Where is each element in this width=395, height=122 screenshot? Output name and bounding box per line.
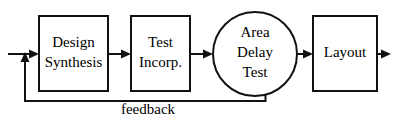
input-arrow-head bbox=[29, 50, 39, 59]
edge-test-to-area bbox=[190, 50, 213, 59]
node-area-delay-test[interactable]: Area Delay Test bbox=[213, 12, 297, 96]
layout-label: Layout bbox=[324, 44, 367, 60]
node-layout[interactable]: Layout bbox=[313, 16, 377, 91]
test-incorp-label-line1: Test bbox=[148, 34, 174, 50]
layout-output-arrow-head bbox=[381, 50, 391, 59]
node-design-synthesis[interactable]: Design Synthesis bbox=[39, 16, 108, 91]
area-to-layout-arrow-head bbox=[303, 50, 313, 59]
edge-area-to-layout bbox=[297, 50, 313, 59]
design-synthesis-label-line1: Design bbox=[52, 34, 95, 50]
edge-synthesis-to-test bbox=[108, 50, 131, 59]
test-incorp-label-line2: Incorp. bbox=[139, 54, 182, 70]
edge-layout-output bbox=[377, 50, 391, 59]
diagram-canvas: Design Synthesis Test Incorp. Area Delay… bbox=[0, 0, 395, 122]
block-diagram: Design Synthesis Test Incorp. Area Delay… bbox=[0, 0, 395, 122]
node-test-incorp[interactable]: Test Incorp. bbox=[131, 16, 190, 91]
synthesis-to-test-arrow-head bbox=[121, 50, 131, 59]
area-delay-test-label-line2: Delay bbox=[237, 44, 273, 60]
feedback-label: feedback bbox=[121, 101, 176, 117]
test-to-area-arrow-head bbox=[203, 50, 213, 59]
design-synthesis-label-line2: Synthesis bbox=[45, 54, 103, 70]
area-delay-test-label-line1: Area bbox=[240, 24, 269, 40]
area-delay-test-label-line3: Test bbox=[243, 64, 269, 80]
